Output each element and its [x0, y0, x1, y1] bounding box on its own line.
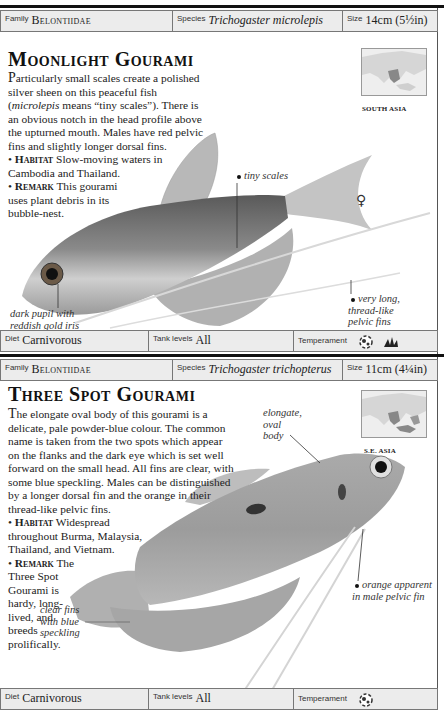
family-label: Family — [5, 363, 29, 372]
diet-label: Diet — [5, 334, 19, 343]
species-title: Three Spot Gourami — [8, 383, 195, 406]
temperament-cell: Temperament — [294, 331, 437, 351]
habitat-paragraph: • Habitat Widespread throughout Burma, M… — [8, 516, 148, 557]
size-cell: Size 11cm (4¼in) — [343, 360, 437, 380]
plant-icon — [382, 335, 400, 349]
family-value: Belontiidae — [32, 362, 91, 377]
habitat-paragraph: • Habitat Slow-moving waters in Cambodia… — [8, 153, 208, 180]
species-description: Particularly small scales create a polis… — [8, 71, 208, 221]
callout-dot — [351, 298, 355, 302]
size-cell: Size 14cm (5½in) — [343, 11, 437, 31]
female-symbol-icon: ♀ — [356, 192, 366, 208]
remark-paragraph: • Remark This gourami uses plant debris … — [8, 180, 138, 221]
species-value: Trichogaster microlepis — [208, 13, 323, 28]
diet-label: Diet — [5, 692, 19, 701]
description-paragraph: The elongate oval body of this gourami i… — [8, 407, 236, 516]
distribution-map — [361, 48, 427, 96]
callout-tiny-scales: tiny scales — [234, 170, 288, 182]
callout-dot — [237, 175, 241, 179]
callout-orange-pelvic: orange apparent in male pelvic fin — [352, 579, 438, 602]
temperament-cell: Temperament — [294, 689, 437, 709]
species-title: Moonlight Gourami — [8, 48, 194, 71]
tank-levels-value: All — [196, 691, 211, 706]
entry-header: Family Belontiidae Species Trichogaster … — [0, 10, 438, 32]
species-label: Species — [177, 363, 205, 372]
map-icon — [362, 49, 426, 95]
callout-elongate-body: elongate, oval body — [263, 407, 303, 442]
tank-levels-label: Tank levels — [153, 692, 193, 701]
map-region-label: SOUTH ASIA — [362, 105, 407, 113]
size-value: 14cm (5½in) — [366, 13, 428, 28]
species-value: Trichogaster trichopterus — [208, 362, 331, 377]
family-label: Family — [5, 14, 29, 23]
entry-footer: Diet Carnivorous Tank levels All Tempera… — [0, 330, 438, 352]
callout-dot — [355, 584, 359, 588]
distribution-map — [361, 390, 427, 438]
species-cell: Species Trichogaster microlepis — [173, 11, 343, 31]
tank-levels-cell: Tank levels All — [149, 689, 294, 709]
peaceful-fish-icon — [358, 335, 374, 349]
family-cell: Family Belontiidae — [1, 360, 173, 380]
description-paragraph: Particularly small scales create a polis… — [8, 71, 208, 153]
entry-moonlight-gourami: Family Belontiidae Species Trichogaster … — [0, 8, 438, 354]
species-label: Species — [177, 14, 205, 23]
entry-footer: Diet Carnivorous Tank levels All Tempera… — [0, 688, 438, 710]
species-cell: Species Trichogaster trichopterus — [173, 360, 343, 380]
diet-cell: Diet Carnivorous — [1, 689, 149, 709]
entry-header: Family Belontiidae Species Trichogaster … — [0, 359, 438, 381]
entry-three-spot-gourami: Family Belontiidae Species Trichogaster … — [0, 357, 438, 710]
map-region-label: S.E. ASIA — [364, 447, 396, 455]
diet-cell: Diet Carnivorous — [1, 331, 149, 351]
family-cell: Family Belontiidae — [1, 11, 173, 31]
temperament-label: Temperament — [298, 694, 347, 703]
size-label: Size — [347, 14, 363, 23]
callout-clear-fins: clear fins with blue speckling — [40, 604, 90, 639]
temperament-label: Temperament — [298, 336, 347, 345]
map-icon — [362, 391, 426, 437]
tank-levels-label: Tank levels — [153, 334, 193, 343]
callout-pelvic-fins: very long, thread-like pelvic fins — [348, 293, 418, 328]
size-label: Size — [347, 363, 363, 372]
family-value: Belontiidae — [32, 13, 91, 28]
tank-levels-cell: Tank levels All — [149, 331, 294, 351]
peaceful-fish-icon — [358, 693, 374, 707]
diet-value: Carnivorous — [22, 333, 81, 348]
size-value: 11cm (4¼in) — [366, 362, 428, 377]
diet-value: Carnivorous — [22, 691, 81, 706]
callout-dark-pupil: dark pupil with reddish gold iris — [10, 308, 80, 331]
tank-levels-value: All — [196, 333, 211, 348]
